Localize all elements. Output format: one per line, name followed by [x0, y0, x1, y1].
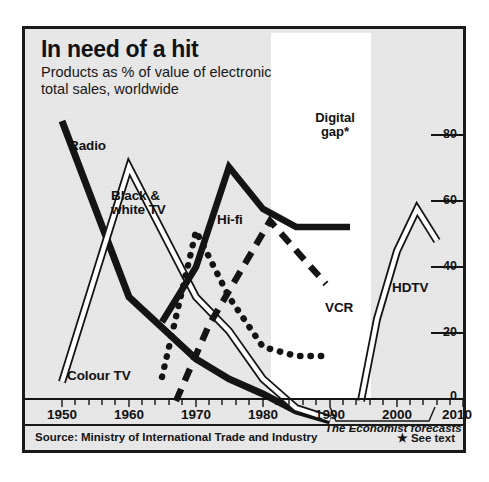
y-tick-label-60: 60: [431, 193, 457, 207]
series-label-colour-tv: Colour TV: [67, 369, 131, 383]
chart-footer: Source: Ministry of International Trade …: [25, 424, 463, 450]
x-tick-label-1960: 1960: [106, 407, 152, 422]
series-label-black-white-tv: Black & white TV: [111, 189, 166, 218]
see-text-note: ★ See text: [397, 431, 455, 445]
x-tick-label-1990: 1990: [307, 407, 353, 422]
y-tick-label-80: 80: [431, 127, 457, 141]
x-tick-label-2010: 2010: [434, 407, 480, 422]
series-line-hdtv: [361, 209, 437, 401]
x-tick-label-1980: 1980: [240, 407, 286, 422]
y-tick-label-40: 40: [431, 259, 457, 273]
annotation-digital-gap: Digital gap*: [301, 111, 369, 140]
chart-frame: In need of a hit Products as % of value …: [22, 26, 466, 453]
plot-svg: [25, 29, 463, 450]
x-tick-label-1970: 1970: [173, 407, 219, 422]
digital-gap-band: [271, 33, 371, 399]
x-axis-minor-ticks: [62, 399, 463, 407]
economist-chart-figure: In need of a hit Products as % of value …: [0, 0, 489, 482]
x-tick-label-2000: 2000: [374, 407, 420, 422]
series-label-hdtv: HDTV: [392, 281, 428, 295]
x-tick-label-1950: 1950: [39, 407, 85, 422]
source-note: Source: Ministry of International Trade …: [35, 431, 317, 443]
plot-area: [25, 29, 463, 450]
y-tick-label-0: 0: [431, 389, 457, 403]
y-tick-label-20: 20: [431, 325, 457, 339]
series-label-vcr: VCR: [325, 301, 353, 315]
series-label-hi-fi: Hi-fi: [217, 213, 243, 227]
series-label-radio: Radio: [69, 139, 106, 153]
